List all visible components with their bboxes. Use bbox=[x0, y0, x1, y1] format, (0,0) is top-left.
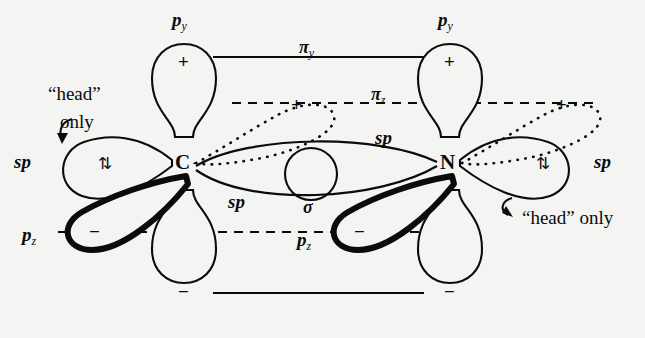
diagram-canvas: .stroke-thin{fill:#f4f4f2;stroke:#0b0b0b… bbox=[0, 0, 645, 338]
orbital-label-py-carbon: py bbox=[172, 10, 187, 32]
sign-pz-nitrogen: − bbox=[354, 222, 365, 241]
orbital-label-pz-nitrogen: pz bbox=[297, 230, 311, 252]
sign-dotted-lobe-nitrogen: + bbox=[556, 95, 567, 114]
sign-py-nitrogen-bottom: − bbox=[444, 282, 455, 301]
sp-lone-pair-nitrogen bbox=[460, 137, 569, 198]
atom-label-nitrogen: N bbox=[440, 152, 455, 173]
electron-pair-nitrogen: ⇅ bbox=[536, 155, 549, 172]
orbital-label-pz-nitrogen-base: p bbox=[297, 229, 307, 250]
bond-label-pi-y: πy bbox=[299, 38, 314, 59]
orbital-label-sp-center-upper: sp bbox=[375, 128, 392, 147]
sign-py-carbon-bottom: − bbox=[178, 282, 189, 301]
orbital-label-pz-carbon-base: p bbox=[22, 224, 32, 245]
orbital-label-sp-far-right: sp bbox=[594, 152, 611, 171]
orbital-label-py-nitrogen-base: p bbox=[438, 9, 448, 30]
bond-label-sigma: σ bbox=[303, 198, 313, 216]
electron-pair-carbon: ⇅ bbox=[98, 155, 111, 172]
sigma-overlap-upper-arc bbox=[196, 141, 437, 166]
orbital-label-py-carbon-sub: y bbox=[182, 19, 187, 33]
orbital-label-pz-carbon-sub: z bbox=[32, 234, 37, 248]
orbital-label-sp-center-lower: sp bbox=[228, 192, 245, 211]
bond-label-pi-z-sub: z bbox=[381, 93, 386, 107]
orbital-label-pz-nitrogen-sub: z bbox=[307, 239, 312, 253]
sign-py-nitrogen-top: + bbox=[444, 52, 455, 71]
annotation-head-only-left-line2: only bbox=[60, 112, 94, 131]
orbital-label-py-carbon-base: p bbox=[172, 9, 182, 30]
orbital-label-sp-far-left: sp bbox=[14, 152, 31, 171]
sign-py-carbon-top: + bbox=[178, 52, 189, 71]
bond-label-pi-y-base: π bbox=[299, 37, 309, 57]
bond-label-pi-z: πz bbox=[371, 85, 386, 106]
annotation-head-only-left-line1: “head” bbox=[48, 84, 101, 103]
annotation-head-only-right: “head” only bbox=[522, 208, 613, 227]
orbital-label-py-nitrogen-sub: y bbox=[448, 19, 453, 33]
sign-pz-carbon: − bbox=[89, 222, 100, 241]
orbital-label-py-nitrogen: py bbox=[438, 10, 453, 32]
sigma-overlap-circle bbox=[285, 148, 337, 200]
pointer-arrowhead-left bbox=[57, 133, 68, 144]
orbital-label-pz-carbon: pz bbox=[22, 225, 36, 247]
sign-dotted-lobe-carbon: + bbox=[291, 95, 302, 114]
bond-label-pi-z-base: π bbox=[371, 84, 381, 104]
atom-label-carbon: C bbox=[175, 152, 190, 173]
bond-label-pi-y-sub: y bbox=[309, 46, 314, 60]
